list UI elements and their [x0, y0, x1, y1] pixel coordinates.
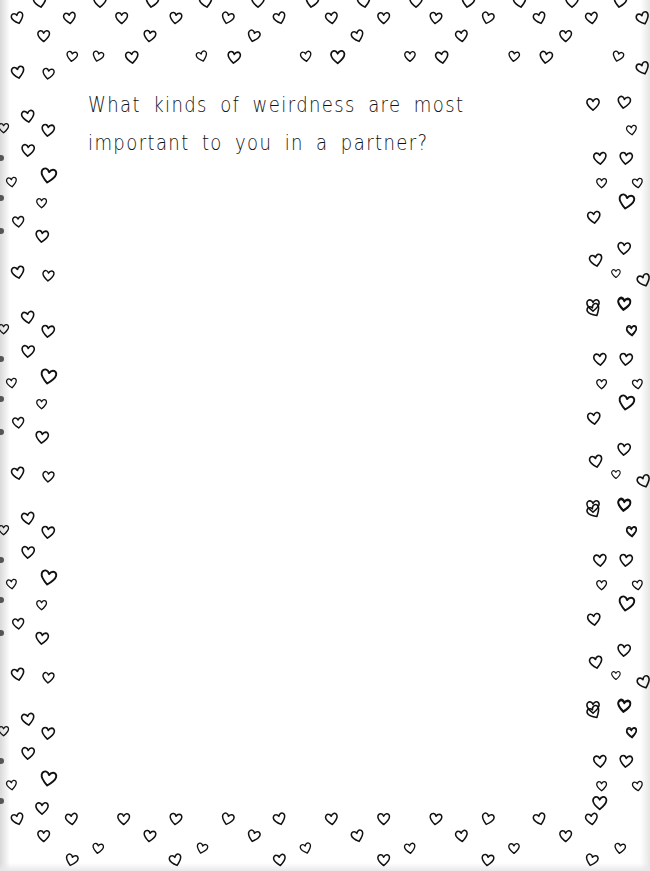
heart-icon — [626, 727, 638, 739]
heart-icon — [586, 500, 600, 513]
heart-icon — [117, 813, 130, 825]
heart-icon — [480, 811, 496, 827]
heart-icon — [93, 0, 107, 8]
heart-icon — [596, 781, 607, 791]
heart-icon — [40, 324, 55, 338]
heart-icon — [246, 828, 262, 844]
heart-icon — [592, 796, 607, 810]
heart-icon — [36, 198, 47, 208]
heart-icon — [616, 497, 632, 512]
heart-icon — [37, 830, 50, 842]
heart-icon — [538, 50, 554, 65]
heart-icon — [532, 10, 548, 26]
heart-icon — [596, 379, 607, 389]
heart-icon — [618, 553, 633, 567]
heart-icon — [35, 802, 49, 815]
heart-icon — [616, 193, 635, 211]
heart-icon — [0, 525, 10, 535]
heart-icon — [6, 176, 18, 188]
heart-icon — [115, 12, 128, 24]
heart-icon — [593, 352, 608, 366]
heart-icon — [40, 123, 55, 137]
heart-icon — [356, 0, 372, 9]
heart-icon — [6, 779, 18, 791]
heart-icon — [585, 812, 600, 826]
heart-icon — [429, 11, 444, 25]
heart-icon — [40, 525, 55, 539]
heart-icon — [32, 0, 48, 9]
heart-icon — [611, 50, 625, 64]
heart-icon — [36, 600, 47, 610]
heart-icon — [632, 177, 645, 189]
heart-icon — [10, 811, 26, 827]
heart-icon — [626, 325, 638, 337]
heart-icon — [616, 95, 632, 110]
heart-icon — [11, 618, 24, 631]
heart-icon — [0, 726, 10, 736]
heart-icon — [272, 10, 288, 26]
page-edge-shadow-right — [640, 0, 650, 871]
heart-icon — [38, 167, 57, 185]
heart-icon — [226, 50, 241, 64]
heart-icon — [41, 471, 54, 484]
heart-icon — [593, 754, 608, 768]
heart-icon — [611, 671, 621, 680]
heart-icon — [586, 612, 601, 626]
heart-icon — [34, 229, 49, 243]
heart-icon — [21, 746, 36, 760]
heart-icon — [144, 0, 160, 9]
heart-icon — [21, 143, 36, 157]
heart-icon — [512, 0, 528, 9]
heart-icon — [565, 0, 579, 8]
heart-icon — [350, 828, 366, 844]
heart-icon — [21, 344, 36, 358]
heart-icon — [251, 0, 265, 8]
heart-icon — [20, 109, 36, 124]
heart-icon — [20, 712, 36, 727]
heart-icon — [10, 64, 26, 79]
heart-icon — [34, 631, 49, 645]
heart-icon — [632, 780, 645, 792]
heart-icon — [10, 666, 26, 681]
heart-icon — [6, 377, 18, 389]
heart-icon — [377, 12, 390, 24]
heart-icon — [63, 11, 78, 25]
heart-icon — [169, 11, 184, 25]
heart-icon — [65, 812, 80, 826]
heart-icon — [304, 0, 320, 9]
heart-icon — [586, 210, 601, 224]
heart-icon — [635, 271, 650, 288]
heart-icon — [617, 241, 632, 255]
heart-icon — [616, 296, 632, 311]
heart-icon — [38, 569, 57, 587]
heart-icon — [616, 698, 632, 713]
heart-icon — [377, 813, 390, 825]
heart-icon — [596, 178, 607, 188]
heart-icon — [617, 442, 632, 456]
heart-icon — [299, 51, 312, 64]
heart-icon — [404, 51, 416, 62]
heart-icon — [11, 216, 24, 229]
heart-icon — [220, 10, 236, 26]
heart-icon — [299, 842, 313, 856]
heart-icon — [617, 643, 632, 657]
heart-icon — [429, 812, 444, 826]
blank-writing-area[interactable] — [88, 170, 568, 790]
heart-icon — [20, 511, 36, 526]
heart-icon — [91, 50, 105, 64]
heart-icon — [613, 843, 626, 856]
heart-icon — [616, 394, 635, 412]
heart-icon — [409, 0, 423, 8]
heart-icon — [612, 0, 628, 9]
heart-icon — [588, 654, 604, 669]
heart-icon — [434, 50, 450, 65]
heart-icon — [65, 51, 78, 64]
heart-icon — [586, 701, 600, 714]
heart-icon — [41, 270, 54, 283]
heart-icon — [626, 526, 638, 538]
heart-icon — [596, 580, 607, 590]
heart-icon — [325, 812, 340, 826]
heart-icon — [37, 30, 50, 42]
heart-icon — [40, 726, 55, 740]
heart-icon — [21, 545, 36, 559]
